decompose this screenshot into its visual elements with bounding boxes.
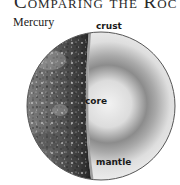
label-mantle: mantle — [96, 157, 131, 167]
label-crust: crust — [96, 21, 122, 31]
planet-surface — [0, 0, 180, 185]
planet-cutaway-diagram — [0, 0, 180, 185]
label-core: core — [85, 96, 107, 106]
